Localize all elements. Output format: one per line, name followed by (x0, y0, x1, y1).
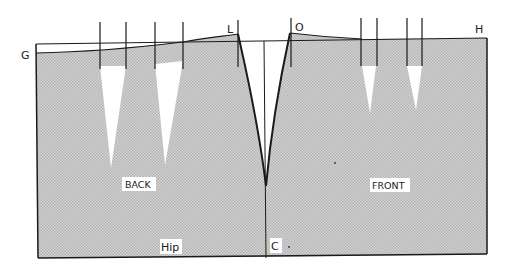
point-label-o: O (295, 21, 304, 34)
stray-dot (334, 162, 336, 164)
point-label-h: H (475, 23, 483, 36)
back-panel (36, 34, 266, 258)
c-point-dot (288, 246, 290, 248)
skirt-pattern-diagram: G L O H BACK FRONT Hip C (0, 0, 506, 269)
back-panel-label: BACK (125, 179, 151, 190)
point-label-l: L (227, 23, 234, 36)
front-panel-label: FRONT (372, 180, 405, 191)
front-panel (266, 33, 487, 257)
hip-label: Hip (161, 241, 179, 254)
point-label-c: C (271, 240, 279, 253)
point-label-g: G (21, 49, 30, 62)
